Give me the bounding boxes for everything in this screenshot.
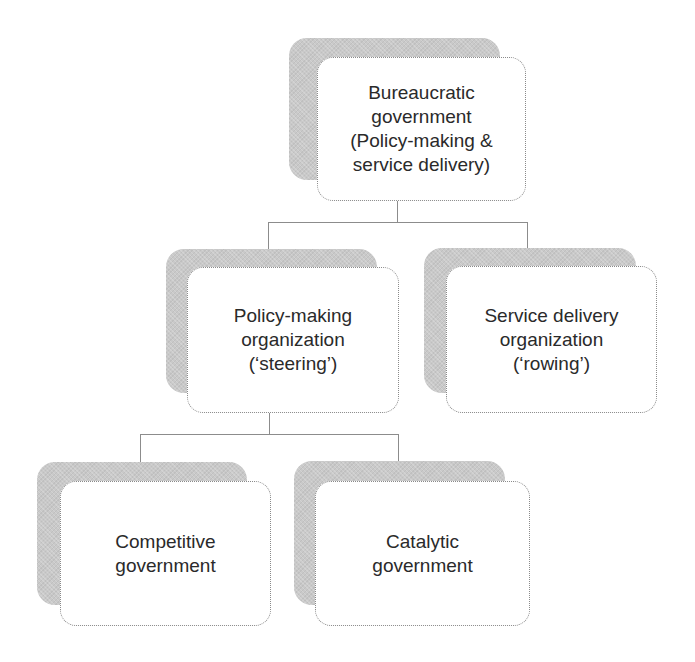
competitive-node: Competitive government — [60, 481, 271, 626]
catalytic-node: Catalytic government — [315, 481, 530, 626]
policy-node-label: Policy-making organization (‘steering’) — [234, 304, 352, 376]
catalytic-node-label: Catalytic government — [372, 530, 472, 578]
policy-node: Policy-making organization (‘steering’) — [187, 267, 399, 413]
competitive-node-label: Competitive government — [115, 530, 215, 578]
connector-level2-horizontal — [140, 434, 399, 435]
service-node: Service delivery organization (‘rowing’) — [446, 266, 657, 413]
root-node-label: Bureaucratic government (Policy-making &… — [350, 81, 493, 177]
service-node-label: Service delivery organization (‘rowing’) — [484, 304, 618, 376]
root-node: Bureaucratic government (Policy-making &… — [317, 57, 526, 201]
connector-policy-down — [269, 413, 270, 434]
connector-root-down — [397, 201, 398, 222]
connector-level1-horizontal — [268, 222, 528, 223]
